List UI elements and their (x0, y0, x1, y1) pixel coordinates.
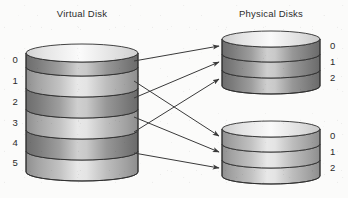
virtual-block-label-1: 1 (13, 75, 18, 86)
diagram-svg: Virtual Disk Physical Disks 0 1 (0, 0, 348, 198)
mapping-arrow-v0-to-p0b0 (134, 46, 219, 61)
virtual-block-label-3: 3 (13, 117, 18, 128)
mapping-arrow-v4-to-p0b2 (134, 79, 219, 132)
mapping-arrow-v3-to-p1b1 (134, 117, 219, 152)
physical-disk-0-block-label-2: 2 (330, 72, 335, 83)
physical-disk-1-cylinder (222, 121, 320, 184)
physical-disk-1-block-label-1: 1 (330, 146, 335, 157)
mapping-arrows (134, 46, 219, 168)
diagram-canvas: Virtual Disk Physical Disks 0 1 (0, 0, 348, 198)
virtual-disk-cylinder (26, 44, 138, 181)
physical-disk-0-block-label-0: 0 (330, 40, 335, 51)
virtual-disk-title: Virtual Disk (57, 8, 107, 19)
physical-disks-title: Physical Disks (239, 8, 303, 19)
mapping-arrow-v1-to-p1b0 (134, 81, 219, 136)
virtual-block-label-5: 5 (13, 157, 18, 168)
physical-disk-1-block-label-0: 0 (330, 130, 335, 141)
physical-disk-0-cylinder (222, 31, 320, 94)
physical-disk-0-block-label-1: 1 (330, 56, 335, 67)
virtual-block-label-2: 2 (13, 96, 18, 107)
virtual-block-label-0: 0 (13, 54, 18, 65)
mapping-arrow-v5-to-p1b2 (134, 153, 219, 168)
physical-disk-1-block-label-2: 2 (330, 162, 335, 173)
virtual-block-label-4: 4 (13, 137, 18, 148)
mapping-arrow-v2-to-p0b1 (134, 62, 219, 98)
